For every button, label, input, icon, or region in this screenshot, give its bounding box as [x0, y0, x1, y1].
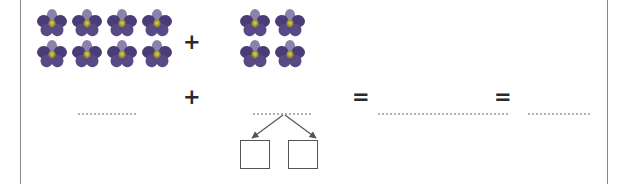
flower-group-right — [239, 8, 309, 70]
flower-item — [239, 39, 271, 69]
flower-icon — [239, 39, 271, 69]
equals-operator-1: = — [352, 87, 370, 108]
blank-intermediate-sum[interactable] — [378, 113, 508, 115]
equals-operator-2: = — [494, 87, 512, 108]
flower-item — [36, 8, 68, 38]
flower-icon — [239, 8, 271, 38]
frame-rule-left — [20, 0, 21, 184]
frame-rule-right — [607, 0, 608, 184]
flower-item — [106, 8, 138, 38]
flower-item — [141, 39, 173, 69]
flower-icon — [36, 39, 68, 69]
flower-icon — [141, 39, 173, 69]
flower-icon — [141, 8, 173, 38]
blank-final-sum[interactable] — [528, 113, 590, 115]
flower-item — [36, 39, 68, 69]
plus-operator-top: + — [183, 32, 201, 53]
decomposition-box-1[interactable] — [240, 140, 270, 169]
flower-group-left — [36, 8, 176, 70]
flower-icon — [274, 8, 306, 38]
flower-icon — [274, 39, 306, 69]
flower-item — [239, 8, 271, 38]
flower-item — [71, 8, 103, 38]
flower-item — [71, 39, 103, 69]
blank-addend-1[interactable] — [78, 113, 136, 115]
flower-icon — [106, 39, 138, 69]
worksheet-canvas: + + = = — [0, 0, 619, 184]
decomposition-box-2[interactable] — [288, 140, 318, 169]
flower-item — [274, 8, 306, 38]
plus-operator-bottom: + — [183, 87, 201, 108]
blank-addend-2[interactable] — [253, 113, 311, 115]
flower-icon — [71, 8, 103, 38]
flower-item — [106, 39, 138, 69]
flower-item — [274, 39, 306, 69]
arrow-down-left-icon — [252, 115, 283, 138]
flower-icon — [106, 8, 138, 38]
arrow-down-right-icon — [285, 115, 316, 138]
flower-item — [141, 8, 173, 38]
flower-icon — [36, 8, 68, 38]
flower-icon — [71, 39, 103, 69]
